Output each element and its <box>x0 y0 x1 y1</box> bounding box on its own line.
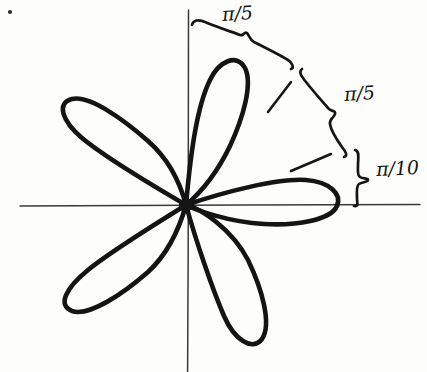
sketch-background <box>0 0 427 372</box>
origin-ink-blot <box>179 199 193 212</box>
angle-label-top: π/5 <box>221 1 253 25</box>
ink-speck <box>8 10 12 14</box>
polar-rose-sketch <box>0 0 427 372</box>
angle-label-middle: π/5 <box>343 81 375 105</box>
figure-canvas: π/5 π/5 π/10 <box>0 0 427 372</box>
angle-label-bottom: π/10 <box>375 156 419 180</box>
